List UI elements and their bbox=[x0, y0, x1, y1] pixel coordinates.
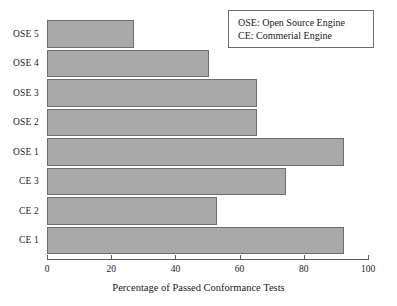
legend-entry-ce: CE: Commerial Engine bbox=[238, 29, 373, 42]
x-axis-tick bbox=[175, 255, 176, 260]
x-axis-tick bbox=[368, 255, 369, 260]
x-axis-tick bbox=[304, 255, 305, 260]
plot-area bbox=[47, 19, 368, 255]
y-tick-label-ose-1: OSE 1 bbox=[13, 147, 39, 157]
legend-entry-ose: OSE: Open Source Engine bbox=[238, 16, 373, 29]
bar-ose-1 bbox=[47, 138, 344, 166]
bar-row bbox=[47, 49, 368, 79]
x-axis-tick-label: 80 bbox=[299, 264, 309, 275]
y-tick-label-ose-5: OSE 5 bbox=[13, 29, 39, 39]
y-tick-label-ce-1: CE 1 bbox=[19, 235, 39, 245]
bar-row bbox=[47, 226, 368, 256]
y-tick-label-ose-2: OSE 2 bbox=[13, 117, 39, 127]
bar-ce-3 bbox=[47, 168, 286, 196]
x-axis-tick bbox=[47, 255, 48, 260]
x-axis-tick-label: 60 bbox=[235, 264, 245, 275]
bar-ce-1 bbox=[47, 227, 344, 255]
y-tick-label-ce-3: CE 3 bbox=[19, 176, 39, 186]
y-tick-label-ose-4: OSE 4 bbox=[13, 58, 39, 68]
x-axis-tick-label: 20 bbox=[106, 264, 116, 275]
legend: OSE: Open Source Engine CE: Commerial En… bbox=[228, 10, 374, 48]
bar-row bbox=[47, 78, 368, 108]
x-axis-tick-label: 100 bbox=[361, 264, 375, 275]
bar-ose-3 bbox=[47, 79, 257, 107]
bar-chart: OSE 5 OSE 4 OSE 3 OSE 2 OSE 1 CE 3 CE 2 … bbox=[0, 0, 397, 306]
y-tick-label-ce-2: CE 2 bbox=[19, 206, 39, 216]
x-axis-line bbox=[47, 259, 368, 260]
x-axis-tick-label: 0 bbox=[45, 264, 50, 275]
bar-ose-2 bbox=[47, 109, 257, 137]
x-axis-tick bbox=[240, 255, 241, 260]
bar-ose-4 bbox=[47, 50, 209, 78]
bar-ose-5 bbox=[47, 20, 134, 48]
x-axis-title: Percentage of Passed Conformance Tests bbox=[0, 282, 397, 294]
bar-row bbox=[47, 137, 368, 167]
x-axis-tick bbox=[111, 255, 112, 260]
bar-row bbox=[47, 196, 368, 226]
bar-row bbox=[47, 108, 368, 138]
y-axis-labels: OSE 5 OSE 4 OSE 3 OSE 2 OSE 1 CE 3 CE 2 … bbox=[0, 19, 43, 255]
x-axis-tick-label: 40 bbox=[171, 264, 181, 275]
bar-row bbox=[47, 167, 368, 197]
y-tick-label-ose-3: OSE 3 bbox=[13, 88, 39, 98]
bar-ce-2 bbox=[47, 197, 217, 225]
